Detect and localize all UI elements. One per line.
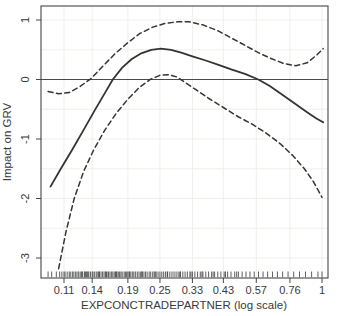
gam-smooth-effect-plot: 0.110.140.190.250.330.430.570.761 10-1-2…: [0, 0, 337, 316]
upper-confidence-band-curve: [48, 22, 323, 94]
x-axis-title: EXPCONCTRADEPARTNER (log scale): [81, 299, 287, 311]
x-tick-label: 0.33: [182, 284, 203, 296]
y-tick-label: -2: [19, 194, 31, 204]
rug-plot: [48, 272, 322, 278]
y-tick-label: -1: [19, 134, 31, 144]
smooth-estimate-curve: [51, 49, 324, 187]
x-tick-label: 0.19: [117, 284, 138, 296]
x-tick-label: 0.11: [54, 284, 75, 296]
x-tick-label: 0.57: [246, 284, 267, 296]
x-tick-label: 0.76: [279, 284, 300, 296]
grid-lines: [41, 6, 328, 278]
y-axis-title: Impact on GRV: [1, 102, 13, 181]
y-axis: 10-1-2-3: [19, 17, 41, 263]
chart-canvas: 0.110.140.190.250.330.430.570.761 10-1-2…: [0, 0, 337, 316]
plot-border: [41, 6, 328, 278]
x-tick-label: 0.43: [213, 284, 234, 296]
y-tick-label: -3: [19, 253, 31, 263]
x-tick-label: 0.14: [81, 284, 102, 296]
y-tick-label: 0: [19, 76, 31, 82]
x-tick-label: 1: [319, 284, 325, 296]
x-tick-label: 0.25: [149, 284, 170, 296]
y-tick-label: 1: [19, 17, 31, 23]
x-axis: 0.110.140.190.250.330.430.570.761: [54, 278, 325, 296]
curves: [48, 22, 323, 269]
